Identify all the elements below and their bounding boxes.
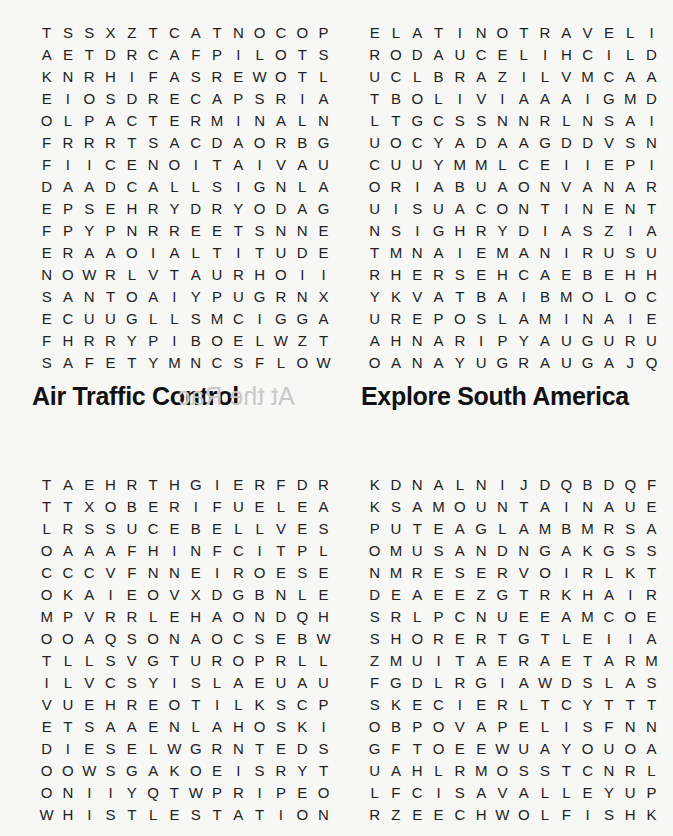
grid-letter: P [492, 329, 513, 351]
grid-letter: R [206, 649, 227, 671]
grid-letter: C [36, 561, 57, 583]
grid-letter: O [364, 539, 385, 561]
grid-letter: E [36, 241, 57, 263]
grid-letter: A [313, 175, 334, 197]
grid-letter: U [449, 43, 470, 65]
grid-letter: R [385, 307, 406, 329]
grid-letter: G [534, 539, 555, 561]
grid-letter: S [598, 803, 619, 825]
grid-letter: H [100, 693, 121, 715]
grid-letter: S [449, 561, 470, 583]
grid-letter: Y [428, 153, 449, 175]
grid-letter: D [364, 583, 385, 605]
grid-letter: D [100, 175, 121, 197]
grid-letter: T [249, 803, 270, 825]
grid-letter: I [492, 473, 513, 495]
grid-letter: U [598, 241, 619, 263]
grid-letter: I [428, 649, 449, 671]
grid-letter: M [577, 65, 598, 87]
grid-letter: V [100, 561, 121, 583]
grid-letter: N [407, 241, 428, 263]
grid-letter: P [57, 197, 78, 219]
grid-letter: G [249, 285, 270, 307]
grid-letter: Q [142, 781, 163, 803]
grid-letter: O [36, 109, 57, 131]
grid-letter: C [100, 153, 121, 175]
grid-letter: N [577, 495, 598, 517]
grid-letter: V [36, 693, 57, 715]
grid-letter: I [36, 671, 57, 693]
grid-letter: R [121, 693, 142, 715]
letter-grid: TSSXZTCATNOCOPAETDRCAFPILOTSKNRHIFASREWO… [36, 21, 334, 373]
grid-letter: I [249, 153, 270, 175]
grid-letter: X [79, 495, 100, 517]
grid-letter: O [407, 627, 428, 649]
grid-letter: I [556, 715, 577, 737]
grid-letter: E [249, 495, 270, 517]
grid-letter: U [470, 351, 491, 373]
grid-letter: P [57, 219, 78, 241]
grid-letter: I [292, 263, 313, 285]
grid-letter: E [142, 495, 163, 517]
grid-letter: S [385, 495, 406, 517]
grid-letter: I [556, 241, 577, 263]
grid-letter: A [598, 351, 619, 373]
grid-letter: R [385, 605, 406, 627]
grid-letter: S [620, 131, 641, 153]
grid-letter: E [100, 351, 121, 373]
grid-letter: M [206, 307, 227, 329]
grid-letter: J [620, 351, 641, 373]
grid-letter: Z [598, 219, 619, 241]
grid-letter: A [534, 649, 555, 671]
grid-letter: L [57, 109, 78, 131]
grid-letter: Q [556, 473, 577, 495]
grid-letter: E [313, 561, 334, 583]
grid-letter: E [428, 517, 449, 539]
grid-letter: U [492, 605, 513, 627]
grid-letter: A [534, 263, 555, 285]
grid-letter: I [598, 627, 619, 649]
grid-letter: N [470, 605, 491, 627]
grid-letter: R [385, 175, 406, 197]
grid-letter: T [449, 649, 470, 671]
grid-letter: O [364, 715, 385, 737]
grid-letter: H [385, 263, 406, 285]
grid-letter: A [620, 671, 641, 693]
grid-letter: G [428, 219, 449, 241]
grid-letter: A [79, 241, 100, 263]
grid-letter: M [449, 153, 470, 175]
grid-letter: S [270, 715, 291, 737]
grid-letter: R [121, 605, 142, 627]
grid-letter: R [228, 263, 249, 285]
grid-letter: L [249, 329, 270, 351]
grid-letter: Q [641, 351, 662, 373]
grid-letter: R [270, 649, 291, 671]
grid-letter: E [36, 87, 57, 109]
grid-letter: E [407, 307, 428, 329]
grid-letter: U [620, 495, 641, 517]
grid-letter: H [577, 583, 598, 605]
grid-letter: T [513, 495, 534, 517]
grid-letter: T [620, 693, 641, 715]
grid-letter: R [492, 693, 513, 715]
grid-letter: L [534, 65, 555, 87]
grid-letter: U [364, 197, 385, 219]
grid-letter: I [534, 43, 555, 65]
grid-letter: E [407, 693, 428, 715]
grid-letter: N [598, 759, 619, 781]
grid-letter: W [313, 627, 334, 649]
grid-letter: A [313, 495, 334, 517]
grid-letter: P [313, 693, 334, 715]
grid-letter: I [449, 21, 470, 43]
grid-letter: R [449, 759, 470, 781]
grid-letter: I [292, 87, 313, 109]
grid-letter: A [428, 351, 449, 373]
grid-letter: U [407, 539, 428, 561]
grid-letter: T [641, 197, 662, 219]
grid-letter: K [385, 693, 406, 715]
grid-letter: P [270, 781, 291, 803]
grid-letter: N [57, 781, 78, 803]
grid-letter: S [470, 109, 491, 131]
grid-letter: M [492, 241, 513, 263]
grid-letter: P [364, 517, 385, 539]
